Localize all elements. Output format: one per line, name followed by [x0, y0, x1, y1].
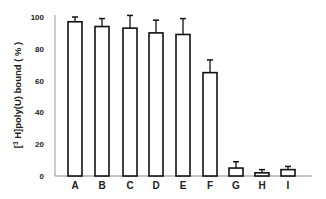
- bar-rect: [176, 34, 190, 176]
- bar-B: [95, 19, 109, 176]
- bar-rect: [229, 168, 243, 176]
- bar-rect: [68, 22, 82, 176]
- bar-I: [281, 166, 295, 176]
- bar-rect: [255, 173, 269, 176]
- y-tick-label: 60: [35, 77, 44, 86]
- bar-rect: [95, 27, 109, 176]
- x-category-label: I: [287, 180, 290, 191]
- x-category-label: E: [180, 180, 187, 191]
- bar-rect: [149, 33, 163, 176]
- category-labels: ABCDEFGHI: [71, 180, 289, 191]
- x-category-label: F: [207, 180, 213, 191]
- y-tick-label: 40: [35, 108, 44, 117]
- x-category-label: B: [98, 180, 105, 191]
- x-category-label: A: [71, 180, 78, 191]
- bar-A: [68, 17, 82, 176]
- bar-F: [203, 60, 217, 176]
- bar-rect: [203, 73, 217, 176]
- bars: [68, 15, 295, 176]
- bar-rect: [123, 28, 137, 176]
- y-tick-label: 0: [40, 172, 45, 181]
- bar-E: [176, 19, 190, 176]
- y-tick-label: 100: [31, 13, 45, 22]
- y-tick-label: 20: [35, 140, 44, 149]
- bar-chart: 020406080100 ABCDEFGHI [3 H]poly(U) boun…: [0, 0, 326, 199]
- x-category-label: D: [152, 180, 159, 191]
- bar-rect: [281, 170, 295, 176]
- x-category-label: C: [126, 180, 133, 191]
- y-axis: 020406080100: [31, 13, 55, 181]
- y-tick-label: 80: [35, 45, 44, 54]
- bar-C: [123, 15, 137, 176]
- x-category-label: G: [232, 180, 240, 191]
- bar-H: [255, 170, 269, 176]
- bar-D: [149, 20, 163, 176]
- x-category-label: H: [258, 180, 265, 191]
- y-axis-label: [3 H]poly(U) bound ( % ): [12, 42, 24, 149]
- bar-G: [229, 162, 243, 176]
